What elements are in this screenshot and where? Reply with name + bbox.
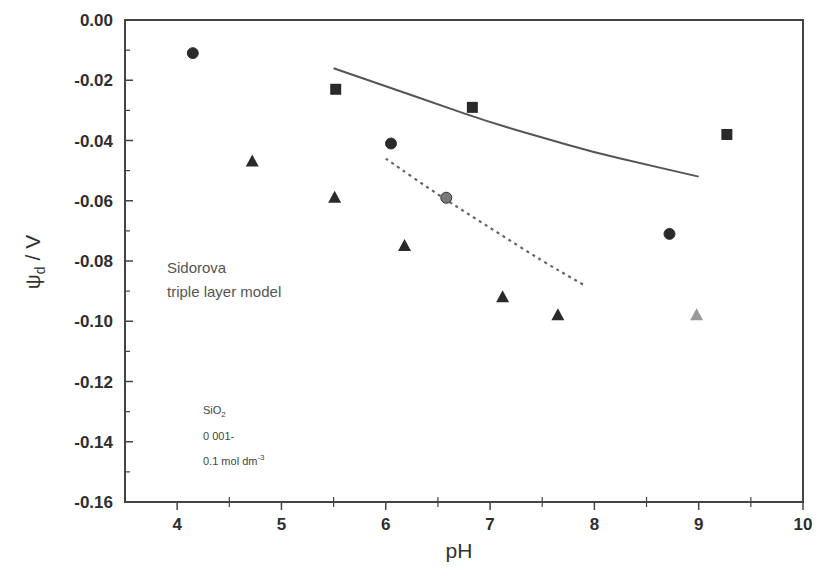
y-tick-label: 0.00 [80,11,113,30]
x-tick-label: 5 [277,515,286,534]
triangle-marker [398,239,411,251]
x-tick-label: 4 [172,515,182,534]
y-tick-label: -0.02 [74,71,113,90]
x-tick-label: 9 [694,515,703,534]
svg-text:ψd / V: ψd / V [21,235,48,289]
triangle-marker [246,155,259,167]
triangle-marker [328,191,341,203]
y-axis-title: ψd / V [21,235,48,289]
y-tick-label: -0.06 [74,192,113,211]
concentration-line2: 0.1 mol dm-3 [203,453,265,467]
y-tick-label: -0.04 [74,132,113,151]
circle-marker [664,228,675,239]
y-tick-label: -0.14 [74,433,113,452]
square-marker [330,84,341,95]
triangle-marker [551,308,564,320]
x-axis-title: pH [446,539,473,562]
y-tick-label: -0.10 [74,312,113,331]
concentration-line1: 0 001- [203,430,235,442]
x-tick-label: 6 [381,515,390,534]
model-solid-line [334,68,699,176]
x-tick-label: 10 [794,515,813,534]
data-points [187,48,732,321]
model-curves [334,68,699,285]
circle-marker [441,192,452,203]
circle-marker [187,48,198,59]
model-label-line2: triple layer model [167,283,281,300]
square-marker [467,102,478,113]
square-marker [721,129,732,140]
model-dotted-line [386,159,584,286]
y-tick-label: -0.16 [74,493,113,512]
sio2-label: SiO2 [203,404,226,419]
x-tick-label: 8 [590,515,599,534]
y-tick-label: -0.08 [74,252,113,271]
y-tick-label: -0.12 [74,373,113,392]
model-label-line1: Sidorova [167,259,227,276]
triangle-marker [690,308,703,320]
x-tick-label: 7 [485,515,494,534]
triangle-marker [496,290,509,302]
circle-marker [385,138,396,149]
scatter-chart: 0.00-0.02-0.04-0.06-0.08-0.10-0.12-0.14-… [0,0,831,581]
